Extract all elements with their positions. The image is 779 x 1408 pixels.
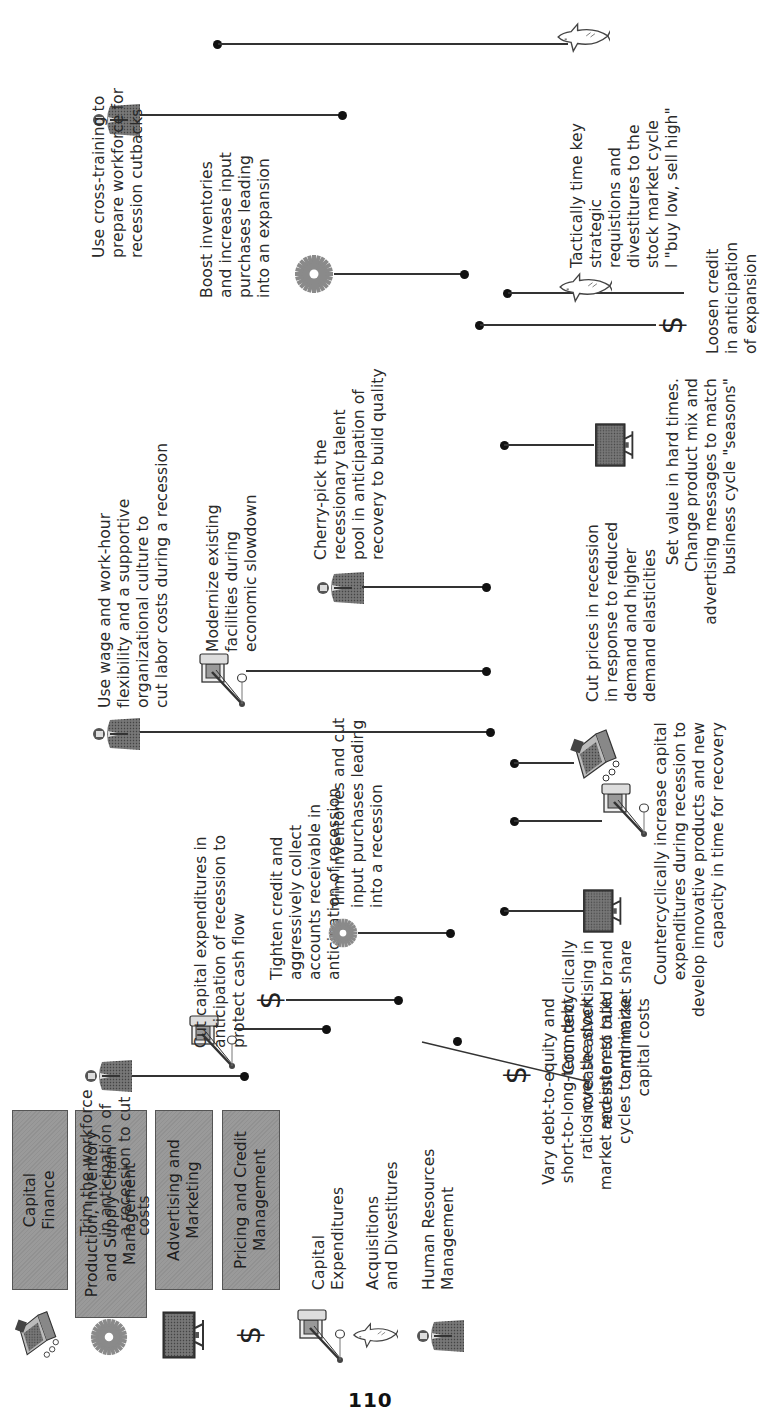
strategy-modernize-facilities: Modernize existing facilities during eco… xyxy=(204,494,261,652)
strategy-loosen-credit: Loosen credit in anticipation of expansi… xyxy=(704,242,761,354)
stem-trim-workforce xyxy=(132,1075,244,1077)
strategy-time-acquisitions: Tactically time key strategic requistion… xyxy=(568,107,682,268)
gear-icon xyxy=(90,1318,128,1356)
timeline-dot-cross-training xyxy=(338,111,347,120)
legend-capital-expenditures: Capital Expenditures xyxy=(310,1187,348,1290)
gear-icon xyxy=(294,254,334,294)
stem-set-value xyxy=(504,444,594,446)
legend-box-pricing-credit: Pricing and Credit Management xyxy=(222,1110,280,1290)
stem-cross-training xyxy=(140,114,340,116)
strategy-boost-inventories-label: Boost inventories and increase input pur… xyxy=(198,152,274,298)
strategy-cut-prices: Cut prices in recession in response to r… xyxy=(584,522,660,702)
stem-modernize-facilities xyxy=(246,670,486,672)
stem-loosen-credit xyxy=(480,324,656,326)
crane-icon xyxy=(198,652,248,708)
stem-cut-prices xyxy=(514,762,574,764)
dollar-icon xyxy=(498,1062,534,1088)
strategy-increase-advertising-label: Countercyclically increase advertising i… xyxy=(560,940,636,1130)
stem-cherry-pick xyxy=(362,586,486,588)
timeline-dot-cut-capex xyxy=(322,1025,331,1034)
stem-increase-capex xyxy=(514,820,602,822)
strategy-cherry-pick: Cherry-pick the recessionary talent pool… xyxy=(312,368,388,560)
legend-acquisitions-divestitures: Acquisitions and Divestitures xyxy=(364,1161,402,1290)
rotated-page: Capital Finance Production, Inventory an… xyxy=(0,0,779,1408)
dollar-icon xyxy=(654,312,690,338)
strategy-cut-capex: Cut capital expenditures in anticipation… xyxy=(192,835,249,1048)
strategy-trim-inventories: Trim inventories and cut input purchases… xyxy=(330,718,387,908)
shark-icon xyxy=(352,1320,398,1350)
strategy-increase-capex: Countercyclically increase capital expen… xyxy=(652,722,728,1017)
stem-increase-advertising xyxy=(504,910,584,912)
legend-box-advertising: Advertising and Marketing xyxy=(155,1110,213,1290)
businessman-icon xyxy=(414,1316,464,1356)
timeline-dot-boost-inventories xyxy=(460,270,469,279)
legend-human-resources: Human Resources Management xyxy=(420,1149,458,1290)
businessman-icon xyxy=(314,568,364,608)
shark-icon xyxy=(558,270,612,304)
stem-boost-inventories xyxy=(334,273,464,275)
stem-trim-inventories xyxy=(358,932,450,934)
timeline-dot-tighten-credit xyxy=(394,996,403,1005)
television-icon xyxy=(592,422,636,468)
television-icon xyxy=(160,1310,206,1360)
businessman-icon xyxy=(90,714,140,754)
timeline-dot-cherry-pick xyxy=(482,583,491,592)
crane-icon xyxy=(600,782,650,838)
cash-register-icon xyxy=(12,1310,62,1360)
page-number: 110 xyxy=(348,1388,393,1408)
shark-icon xyxy=(556,20,610,54)
timeline-dot-trim-inventories xyxy=(446,929,455,938)
television-icon xyxy=(580,888,624,934)
stem-tighten-credit xyxy=(286,999,398,1001)
timeline-dot-trim-workforce xyxy=(240,1072,249,1081)
crane-icon xyxy=(296,1308,346,1364)
strategy-set-value: Set value in hard times. Change product … xyxy=(664,378,740,625)
timeline-dot-wage-flexibility xyxy=(486,728,495,737)
stem-wage-flexibility xyxy=(140,731,490,733)
strategy-trim-workforce-label: Trim the workforce in anticipation of a … xyxy=(78,1089,154,1236)
dollar-icon xyxy=(232,1322,268,1348)
gear-icon xyxy=(328,918,358,948)
timeline-dot-modernize-facilities xyxy=(482,667,491,676)
strategy-wage-flexibility: Use wage and work-hour flexibility and a… xyxy=(96,443,172,708)
strategy-cross-training: Use cross-training to prepare workforce … xyxy=(90,88,147,258)
cash-register-icon xyxy=(570,728,620,784)
stem-acquisitions-expansion xyxy=(218,43,568,45)
dollar-icon xyxy=(252,987,288,1013)
legend-box-capital-finance: Capital Finance xyxy=(12,1110,68,1290)
timeline-dot-vary-debt xyxy=(453,1037,462,1046)
